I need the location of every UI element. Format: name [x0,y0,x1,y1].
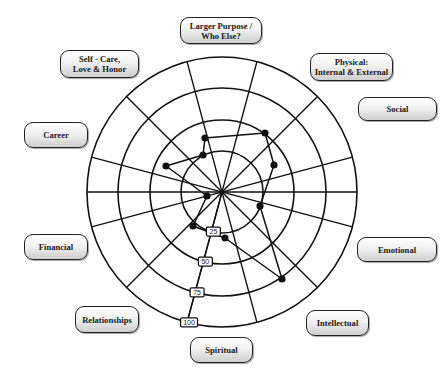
score-point-4 [256,202,263,209]
scale-label-text: 25 [209,228,217,235]
scale-label-25: 25 [206,227,220,236]
category-label-spiritual: Spiritual [190,337,253,363]
score-point-9 [162,162,169,169]
score-point-3 [270,161,277,168]
category-label-financial: Financial [24,234,88,260]
category-label-relationships: Relationships [75,306,139,333]
category-label-career: Career [24,122,88,148]
score-point-5 [278,275,285,282]
category-label-self-care: Self - Care, Love & Honor [60,50,139,78]
category-label-physical: Physical: Internal & External [310,53,393,81]
score-trace [162,129,285,282]
scale-label-text: 50 [201,258,209,265]
score-point-8 [203,192,210,199]
scale-label-text: 100 [183,319,195,326]
category-label-emotional: Emotional [357,237,437,262]
scale-label-text: 75 [193,289,201,296]
scale-label-100: 100 [181,318,198,327]
category-label-larger-purpose: Larger Purpose / Who Else? [180,17,262,44]
score-point-6 [221,234,228,241]
category-label-intellectual: Intellectual [306,310,369,336]
scale-label-50: 50 [198,257,212,266]
score-point-2 [261,129,268,136]
score-point-7 [189,222,196,229]
category-label-social: Social [358,97,437,121]
score-point-10 [199,151,206,158]
scale-label-75: 75 [190,288,204,297]
score-point-1 [201,134,208,141]
